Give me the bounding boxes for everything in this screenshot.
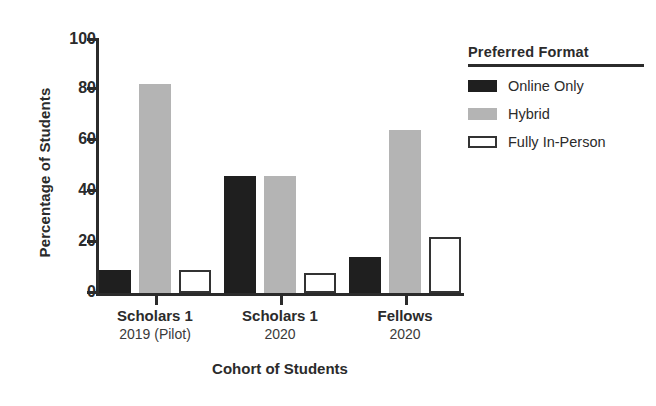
y-tick-label-40: 40 xyxy=(78,181,96,199)
x-axis-title: Cohort of Students xyxy=(96,360,464,377)
legend-label: Online Only xyxy=(508,78,584,94)
x-group-label-2: Scholars 1 2020 xyxy=(242,306,318,344)
y-tick-label-0: 0 xyxy=(87,283,96,301)
x-group-label-3: Fellows 2020 xyxy=(377,306,432,344)
x-group-label-1: Scholars 1 2019 (Pilot) xyxy=(117,306,193,344)
y-axis-line xyxy=(96,38,99,294)
legend: Preferred Format Online OnlyHybridFully … xyxy=(468,44,644,162)
y-tick-label-20: 20 xyxy=(78,232,96,250)
y-tick-label-60: 60 xyxy=(78,130,96,148)
legend-items: Online OnlyHybridFully In-Person xyxy=(468,78,644,150)
x-tick-group-3 xyxy=(405,296,408,305)
legend-title: Preferred Format xyxy=(468,44,644,64)
x-tick-group-1 xyxy=(155,296,158,305)
y-tick-label-100: 100 xyxy=(69,30,96,48)
bar-1-hybrid xyxy=(139,84,171,293)
legend-label: Hybrid xyxy=(508,106,550,122)
legend-item-hybrid[interactable]: Hybrid xyxy=(468,106,644,122)
bar-1-fully-in-person xyxy=(179,270,211,293)
legend-swatch-icon xyxy=(468,136,497,148)
bar-2-fully-in-person xyxy=(304,273,336,293)
bar-2-online-only xyxy=(224,176,256,293)
legend-item-fully-in-person[interactable]: Fully In-Person xyxy=(468,134,644,150)
bar-2-hybrid xyxy=(264,176,296,293)
bar-3-online-only xyxy=(349,257,381,293)
legend-divider xyxy=(468,64,644,67)
bar-chart-figure: Percentage of Students 0 20 40 60 80 100… xyxy=(0,0,656,406)
legend-swatch-icon xyxy=(468,80,497,92)
y-axis-title: Percentage of Students xyxy=(36,43,53,303)
legend-label: Fully In-Person xyxy=(508,134,606,150)
legend-item-online-only[interactable]: Online Only xyxy=(468,78,644,94)
bar-3-fully-in-person xyxy=(429,237,461,293)
bar-3-hybrid xyxy=(389,130,421,293)
x-tick-group-2 xyxy=(280,296,283,305)
bar-1-online-only xyxy=(99,270,131,293)
plot-area: 0 20 40 60 80 100 Scholars 1 2019 (Pilot… xyxy=(96,38,464,293)
legend-swatch-icon xyxy=(468,108,497,120)
y-tick-label-80: 80 xyxy=(78,79,96,97)
